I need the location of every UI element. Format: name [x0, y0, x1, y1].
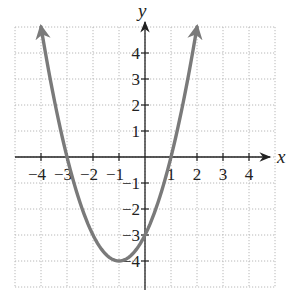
y-tick-label: 1 — [132, 122, 141, 141]
x-axis-label: x — [276, 146, 286, 167]
x-tick-label: 3 — [219, 165, 228, 184]
y-tick-label: −2 — [122, 200, 140, 219]
x-tick-label: 2 — [193, 165, 202, 184]
parabola-graph: −4−3−2−11234−4−3−2−11234 x y — [0, 0, 292, 292]
x-tick-label: −2 — [80, 165, 98, 184]
x-tick-label: −4 — [28, 165, 47, 184]
x-tick-label: 4 — [245, 165, 254, 184]
y-tick-label: 2 — [132, 96, 141, 115]
y-tick-label: 3 — [132, 70, 141, 89]
y-axis-label: y — [136, 0, 147, 21]
y-tick-label: −3 — [122, 226, 140, 245]
axes — [15, 22, 270, 290]
y-tick-label: −1 — [122, 174, 140, 193]
y-tick-label: 4 — [132, 44, 141, 63]
